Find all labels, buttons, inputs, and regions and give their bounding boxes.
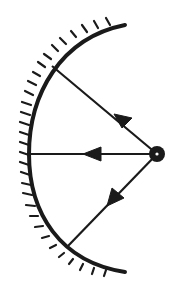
source-center-dot-icon [155, 152, 158, 155]
axial-ray-arrowhead-icon [83, 147, 101, 161]
mirror-surface [29, 25, 125, 272]
concave-mirror-diagram [0, 0, 180, 292]
point-source [149, 146, 165, 162]
rays [30, 66, 157, 247]
upper-ray [52, 66, 157, 154]
mirror [20, 18, 125, 276]
